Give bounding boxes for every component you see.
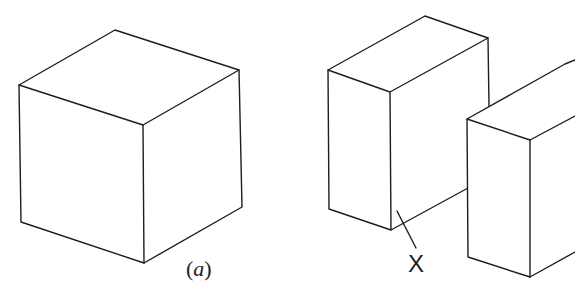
panel-a-label: (a) bbox=[186, 256, 212, 281]
block-b-left bbox=[328, 16, 489, 230]
figure-canvas: (a) X bbox=[0, 0, 575, 292]
marker-x-label: X bbox=[408, 250, 424, 277]
cube-a bbox=[19, 30, 242, 263]
